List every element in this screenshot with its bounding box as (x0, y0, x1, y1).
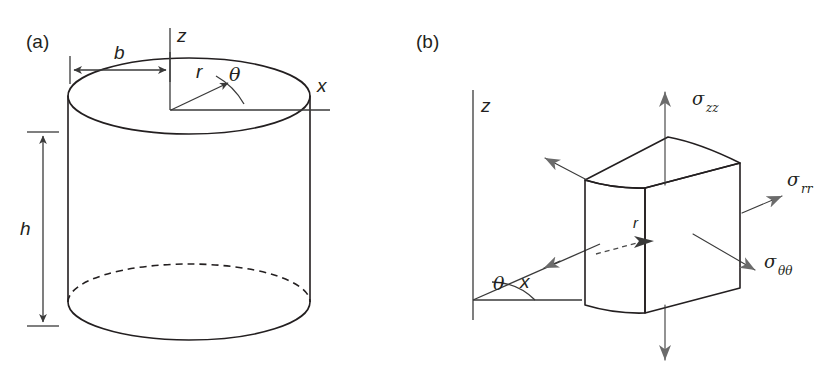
panel-a-x-axis-label: x (316, 75, 328, 96)
sigma-zz-subscript: zz (705, 101, 719, 115)
panel-b-theta-label: θ (493, 272, 505, 294)
dim-b-label: b (114, 42, 125, 63)
figure-root: (a) z x b h r θ (b) z (0, 0, 834, 378)
panel-a-theta-label: θ (229, 63, 241, 85)
panel-b-label: (b) (416, 31, 439, 52)
panel-a-z-axis-label: z (176, 25, 187, 46)
technical-figure-canvas: (a) z x b h r θ (b) z (0, 0, 834, 378)
dim-h-label: h (20, 218, 31, 239)
sigma-theta-theta-subscript: θθ (778, 264, 793, 278)
panel-b-z-axis-label: z (480, 95, 491, 116)
figure-background (0, 0, 834, 378)
sigma-theta-theta-symbol: σ (764, 251, 777, 272)
panel-a-label: (a) (26, 31, 49, 52)
panel-a-r-label: r (196, 61, 203, 82)
sigma-rr-subscript: rr (801, 182, 814, 196)
sigma-rr-symbol: σ (787, 169, 800, 190)
sigma-zz-symbol: σ (692, 88, 705, 109)
